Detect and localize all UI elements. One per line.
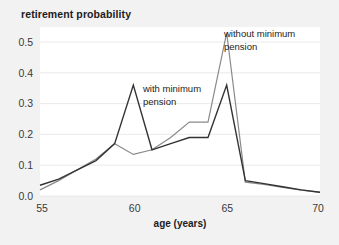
y-tick-label: 0.4 xyxy=(18,67,33,79)
annotation-without-minimum-pension-line2: pension xyxy=(224,41,257,52)
x-tick-label: 60 xyxy=(129,202,141,214)
y-tick-label: 0.5 xyxy=(18,36,33,48)
x-tick-label: 55 xyxy=(36,202,48,214)
x-axis-title: age (years) xyxy=(154,218,207,229)
x-tick-label: 65 xyxy=(221,202,233,214)
y-tick-label: 0.2 xyxy=(18,128,33,140)
x-axis-ticks: 55 60 65 70 xyxy=(36,202,324,214)
y-tick-label: 0.0 xyxy=(18,190,33,202)
plot-background xyxy=(40,27,320,196)
x-tick-label: 70 xyxy=(312,202,324,214)
annotation-with-minimum-pension-line2: pension xyxy=(143,96,176,107)
chart-plot: 0.5 0.4 0.3 0.2 0.1 0.0 55 60 65 70 age … xyxy=(0,0,339,245)
y-axis-ticks: 0.5 0.4 0.3 0.2 0.1 0.0 xyxy=(18,36,33,202)
chart-figure: retirement probability 0.5 0.4 0.3 0.2 0… xyxy=(0,0,339,245)
y-tick-label: 0.1 xyxy=(18,159,33,171)
annotation-without-minimum-pension-line1: without minimum xyxy=(223,28,295,39)
annotation-with-minimum-pension-line1: with minimum xyxy=(142,83,201,94)
y-tick-label: 0.3 xyxy=(18,97,33,109)
